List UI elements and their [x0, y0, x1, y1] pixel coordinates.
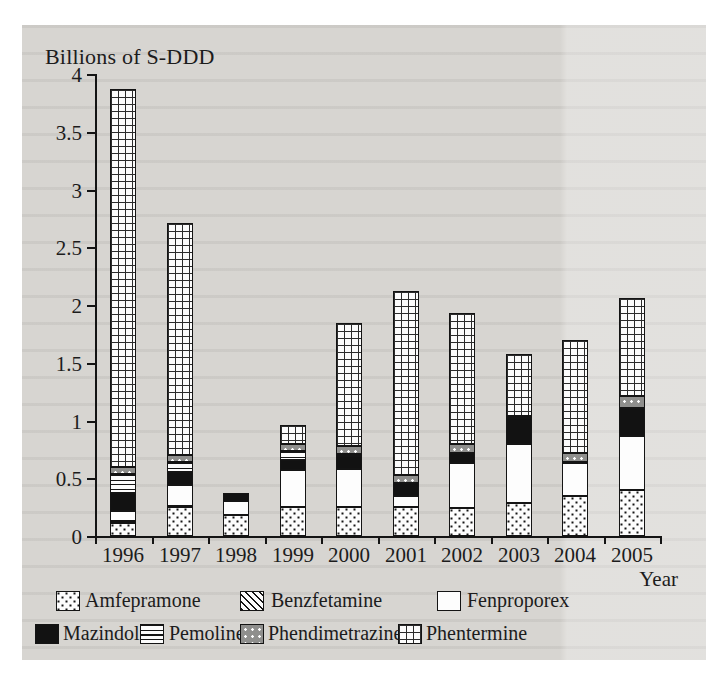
bar-2004-amfepramone — [562, 496, 588, 536]
bar-1996-benzfetamine — [110, 521, 136, 523]
x-tick — [660, 536, 662, 544]
y-tick — [87, 421, 95, 423]
x-tick — [491, 536, 493, 544]
bar-1998-mazindol — [223, 493, 249, 501]
bar-1996-phendimetrazine — [110, 467, 136, 474]
bar-2003-mazindol — [506, 418, 532, 444]
bar-1999-mazindol — [280, 460, 306, 470]
y-tick-label: 1 — [40, 411, 82, 433]
x-category-label: 2001 — [377, 544, 435, 566]
bar-2001-phentermine — [393, 291, 419, 475]
bar-1996-mazindol — [110, 493, 136, 511]
bar-1999-amfepramone — [280, 507, 306, 536]
x-tick — [152, 536, 154, 544]
bar-2001-fenproporex — [393, 496, 419, 507]
x-category-label: 1997 — [151, 544, 209, 566]
y-tick — [87, 536, 95, 538]
x-category-label: 2000 — [320, 544, 378, 566]
x-axis-label: Year — [540, 567, 678, 592]
x-category-label: 1996 — [94, 544, 152, 566]
bar-1997-amfepramone — [167, 507, 193, 536]
bar-2003-phendimetrazine — [506, 416, 532, 418]
y-tick-label: 4 — [40, 64, 82, 86]
bar-1996-fenproporex — [110, 511, 136, 521]
y-tick-label: 2 — [40, 295, 82, 317]
bar-1999-fenproporex — [280, 470, 306, 507]
x-category-label: 2003 — [490, 544, 548, 566]
x-category-label: 2002 — [433, 544, 491, 566]
bar-2005-amfepramone — [619, 490, 645, 536]
bar-2004-phentermine — [562, 340, 588, 453]
x-tick — [208, 536, 210, 544]
y-tick-label: 2.5 — [40, 237, 82, 259]
y-tick-label: 0.5 — [40, 468, 82, 490]
y-tick — [87, 363, 95, 365]
y-axis-line — [95, 74, 97, 538]
bar-1999-phentermine — [280, 425, 306, 444]
x-tick — [434, 536, 436, 544]
bar-1997-fenproporex — [167, 485, 193, 506]
bar-2005-fenproporex — [619, 436, 645, 490]
y-tick — [87, 478, 95, 480]
x-tick — [378, 536, 380, 544]
bar-2004-phendimetrazine — [562, 453, 588, 462]
bar-2003-phentermine — [506, 354, 532, 416]
bar-1996-pemoline — [110, 474, 136, 493]
y-tick — [87, 190, 95, 192]
bar-2003-fenproporex — [506, 444, 532, 503]
bar-1997-phentermine — [167, 223, 193, 455]
scanned-book-figure: Billions of S-DDD 00.511.522.533.5419961… — [0, 0, 706, 689]
y-tick-label: 3.5 — [40, 122, 82, 144]
bar-2000-pemoline — [336, 454, 362, 456]
bar-2003-amfepramone — [506, 503, 532, 536]
y-tick-label: 1.5 — [40, 353, 82, 375]
x-category-label: 1998 — [207, 544, 265, 566]
bar-2002-mazindol — [449, 453, 475, 463]
bar-1999-phendimetrazine — [280, 444, 306, 451]
bar-1997-pemoline — [167, 462, 193, 472]
bar-2002-phendimetrazine — [449, 444, 475, 453]
bar-1998-amfepramone — [223, 515, 249, 536]
x-category-label: 1999 — [264, 544, 322, 566]
bar-2001-phendimetrazine — [393, 475, 419, 483]
y-tick — [87, 74, 95, 76]
bar-2001-amfepramone — [393, 507, 419, 536]
bar-2002-amfepramone — [449, 508, 475, 536]
x-tick — [604, 536, 606, 544]
y-tick-label: 3 — [40, 180, 82, 202]
x-category-label: 2004 — [546, 544, 604, 566]
bar-2002-phentermine — [449, 313, 475, 444]
bar-1998-fenproporex — [223, 501, 249, 515]
bar-2005-phentermine — [619, 298, 645, 396]
bar-2000-phentermine — [336, 323, 362, 446]
bar-2000-mazindol — [336, 456, 362, 469]
x-tick — [547, 536, 549, 544]
bar-2000-fenproporex — [336, 469, 362, 507]
bar-2005-phendimetrazine — [619, 396, 645, 408]
bar-1996-phentermine — [110, 89, 136, 467]
bar-2000-phendimetrazine — [336, 446, 362, 454]
bar-2005-mazindol — [619, 408, 645, 436]
bar-2004-fenproporex — [562, 463, 588, 496]
y-tick — [87, 132, 95, 134]
x-tick — [321, 536, 323, 544]
x-category-label: 2005 — [603, 544, 661, 566]
bar-1997-phendimetrazine — [167, 455, 193, 462]
bar-1996-amfepramone — [110, 523, 136, 536]
bar-2001-mazindol — [393, 483, 419, 496]
y-tick — [87, 247, 95, 249]
x-tick — [95, 536, 97, 544]
y-tick — [87, 305, 95, 307]
x-tick — [265, 536, 267, 544]
bar-1999-pemoline — [280, 451, 306, 460]
bar-2002-fenproporex — [449, 463, 475, 508]
y-tick-label: 0 — [40, 526, 82, 548]
bar-1997-mazindol — [167, 472, 193, 485]
bar-2000-amfepramone — [336, 507, 362, 536]
